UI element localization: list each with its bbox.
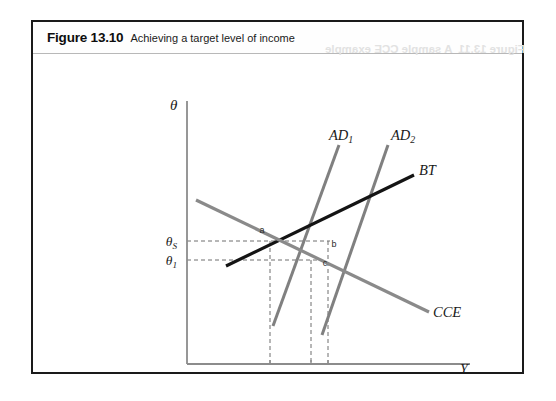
curve-label-AD1: AD1 <box>328 127 353 145</box>
guide-lines-group <box>187 241 330 364</box>
curve-label-AD2: AD2 <box>390 127 415 145</box>
x-tick-label-Y-T: YT <box>322 369 336 372</box>
x-tick-label-Y-S: YS <box>264 369 277 372</box>
y-axis-label: θ <box>170 97 178 113</box>
point-label-a: a <box>259 225 264 235</box>
figure-title: Achieving a target level of income <box>130 32 294 44</box>
point-label-c: c <box>323 258 328 268</box>
labels-group: AD1AD2BTCCEθYθSθ1YSY1YT <box>166 97 470 372</box>
plot-area: abc AD1AD2BTCCEθYθSθ1YSY1YT <box>33 54 522 372</box>
curves-group <box>196 145 429 335</box>
figure-box: Figure 13.10 Achieving a target level of… <box>31 20 524 374</box>
curve-label-CCE: CCE <box>433 304 461 320</box>
curve-label-BT: BT <box>419 162 437 178</box>
curve-BT <box>226 175 414 266</box>
economics-diagram: abc AD1AD2BTCCEθYθSθ1YSY1YT <box>33 54 522 372</box>
x-tick-label-Y-1: Y1 <box>305 369 317 372</box>
y-tick-label-theta-S: θS <box>166 234 178 251</box>
figure-header: Figure 13.10 Achieving a target level of… <box>33 22 522 54</box>
point-label-b: b <box>331 239 336 249</box>
figure-number: Figure 13.10 <box>47 30 123 45</box>
y-tick-label-theta-1: θ1 <box>166 253 177 270</box>
curve-AD1 <box>273 145 339 326</box>
